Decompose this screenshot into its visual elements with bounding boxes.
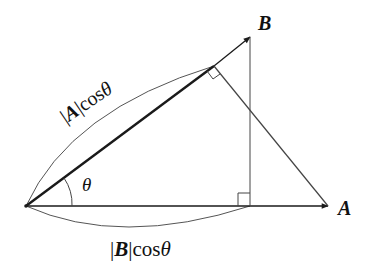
vector-b-line-thick (26, 66, 214, 206)
theta-symbol: θ (160, 237, 170, 261)
projection-b-label: |B|cosθ (110, 237, 171, 261)
cos-text: cos (132, 237, 160, 261)
origin-point (24, 204, 28, 208)
vector-b-line (214, 37, 250, 66)
vector-b-label: B (257, 12, 271, 34)
angle-theta-label: θ (82, 174, 91, 195)
svg-text:|A|cosθ: |A|cosθ (56, 77, 117, 129)
projection-diagram: B A θ |A|cosθ |B|cosθ (0, 0, 376, 278)
projection-arc-b (26, 206, 250, 227)
vector-a-label: A (336, 197, 351, 219)
perpendicular-a-to-b (214, 66, 328, 206)
right-angle-marker-a (238, 193, 250, 206)
vector-b-symbol: B (113, 237, 128, 261)
right-angle-marker-b (207, 71, 220, 79)
projection-a-label: |A|cosθ (56, 77, 117, 129)
angle-arc (64, 178, 72, 206)
